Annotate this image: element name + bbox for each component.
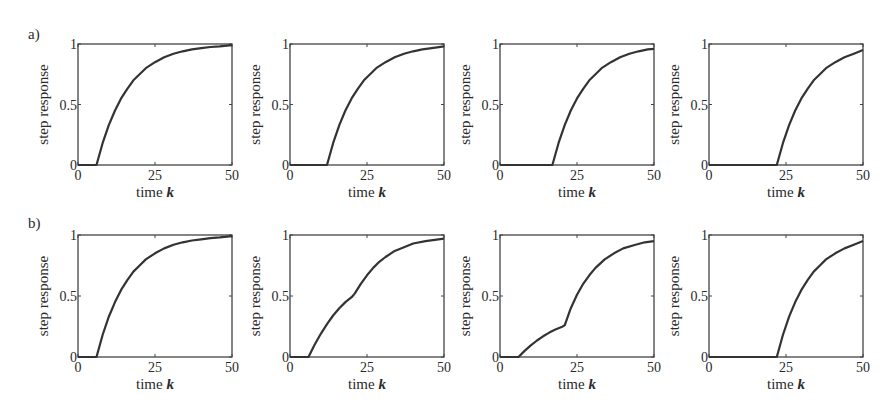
y-tick-label: 0.5: [60, 98, 78, 113]
y-tick-label: 1: [70, 37, 77, 52]
y-tick-label: 1: [492, 228, 499, 243]
y-tick-label: 0: [701, 158, 708, 173]
y-tick-label: 0: [701, 350, 708, 365]
axes-box: [290, 235, 444, 357]
x-axis-label: time k: [558, 184, 596, 200]
y-tick-label: 0.5: [691, 98, 709, 113]
figure-canvas: 0255000.51time kstep response0255000.51t…: [0, 0, 895, 414]
x-axis-label: time k: [558, 376, 596, 392]
step-response-line: [290, 46, 444, 165]
subplot-a-2: 0255000.51time kstep response: [247, 37, 451, 200]
x-axis-label: time k: [136, 184, 174, 200]
y-tick-label: 1: [70, 228, 77, 243]
step-response-line: [78, 236, 232, 357]
x-axis-label: time k: [348, 184, 386, 200]
x-tick-label: 50: [437, 360, 451, 375]
x-axis-label: time k: [767, 376, 805, 392]
x-tick-label: 50: [856, 168, 870, 183]
y-tick-label: 1: [492, 37, 499, 52]
y-axis-label: step response: [457, 64, 473, 145]
x-tick-label: 25: [570, 168, 584, 183]
y-tick-label: 1: [701, 228, 708, 243]
x-axis-label: time k: [136, 376, 174, 392]
subplot-a-3: 0255000.51time kstep response: [457, 37, 661, 200]
step-response-line: [500, 241, 654, 357]
axes-box: [709, 235, 863, 357]
y-axis-label: step response: [247, 255, 263, 336]
y-axis-label: step response: [457, 255, 473, 336]
y-tick-label: 0.5: [272, 289, 290, 304]
x-tick-label: 25: [148, 360, 162, 375]
y-tick-label: 0: [70, 158, 77, 173]
x-tick-label: 25: [148, 168, 162, 183]
x-tick-label: 25: [779, 360, 793, 375]
step-response-line: [709, 50, 863, 165]
subplot-a-1: 0255000.51time kstep response: [35, 37, 239, 200]
x-tick-label: 50: [647, 360, 661, 375]
y-tick-label: 1: [282, 228, 289, 243]
subplot-b-2: 0255000.51time kstep response: [247, 228, 451, 392]
y-tick-label: 0: [492, 158, 499, 173]
x-axis-label: time k: [348, 376, 386, 392]
y-tick-label: 0: [492, 350, 499, 365]
step-response-line: [709, 241, 863, 357]
y-tick-label: 0: [282, 350, 289, 365]
axes-box: [290, 44, 444, 165]
subplot-b-1: 0255000.51time kstep response: [35, 228, 239, 392]
x-tick-label: 25: [360, 360, 374, 375]
subplot-b-4: 0255000.51time kstep response: [666, 228, 870, 392]
y-tick-label: 0.5: [272, 98, 290, 113]
x-tick-label: 50: [437, 168, 451, 183]
y-tick-label: 1: [701, 37, 708, 52]
y-tick-label: 0.5: [482, 98, 500, 113]
y-tick-label: 0: [70, 350, 77, 365]
y-tick-label: 0.5: [60, 289, 78, 304]
x-axis-label: time k: [767, 184, 805, 200]
x-tick-label: 50: [647, 168, 661, 183]
x-tick-label: 50: [225, 168, 239, 183]
y-axis-label: step response: [247, 64, 263, 145]
y-axis-label: step response: [666, 64, 682, 145]
step-response-line: [78, 45, 232, 165]
y-axis-label: step response: [35, 64, 51, 145]
x-tick-label: 25: [570, 360, 584, 375]
y-tick-label: 0: [282, 158, 289, 173]
x-tick-label: 50: [856, 360, 870, 375]
y-axis-label: step response: [35, 255, 51, 336]
axes-box: [709, 44, 863, 165]
axes-box: [500, 44, 654, 165]
x-tick-label: 25: [779, 168, 793, 183]
x-tick-label: 50: [225, 360, 239, 375]
x-tick-label: 25: [360, 168, 374, 183]
step-response-line: [500, 49, 654, 165]
step-response-line: [290, 239, 444, 357]
y-tick-label: 0.5: [482, 289, 500, 304]
subplot-a-4: 0255000.51time kstep response: [666, 37, 870, 200]
y-tick-label: 0.5: [691, 289, 709, 304]
subplot-b-3: 0255000.51time kstep response: [457, 228, 661, 392]
y-axis-label: step response: [666, 255, 682, 336]
y-tick-label: 1: [282, 37, 289, 52]
